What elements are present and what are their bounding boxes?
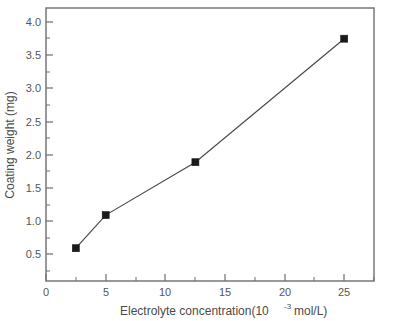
y-tick-label: 1.0: [26, 215, 41, 227]
x-axis-title-tail: mol/L): [294, 304, 327, 318]
chart-figure: 0.5 1.0 1.5 2.0 2.5 3.0 3.5 4.0 0 5 10 1…: [0, 0, 397, 321]
y-tick-label: 2.0: [26, 149, 41, 161]
data-point-marker[interactable]: [341, 35, 348, 42]
x-tick-label: 5: [103, 286, 109, 298]
x-tick-label: 15: [219, 286, 231, 298]
x-axis-title-main: Electrolyte concentration(10: [120, 304, 269, 318]
y-axis-title: Coating weight (mg): [3, 91, 17, 198]
y-tick-label: 4.0: [26, 16, 41, 28]
x-tick-label: 0: [43, 286, 49, 298]
x-tick-label: 10: [159, 286, 171, 298]
y-tick-label: 2.5: [26, 116, 41, 128]
y-tick-label: 1.5: [26, 182, 41, 194]
y-tick-label: 3.0: [26, 82, 41, 94]
data-point-marker[interactable]: [72, 245, 79, 252]
line-chart: 0.5 1.0 1.5 2.0 2.5 3.0 3.5 4.0 0 5 10 1…: [0, 0, 397, 321]
data-point-marker[interactable]: [102, 212, 109, 219]
y-tick-label: 3.5: [26, 49, 41, 61]
data-point-marker[interactable]: [192, 159, 199, 166]
x-axis-title-superscript: -3: [284, 302, 292, 311]
y-tick-label: 0.5: [26, 248, 41, 260]
x-tick-label: 20: [279, 286, 291, 298]
x-tick-label: 25: [338, 286, 350, 298]
x-axis-title: Electrolyte concentration(10 -3 mol/L): [120, 302, 327, 318]
